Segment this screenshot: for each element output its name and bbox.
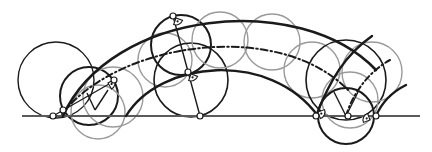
point-mid bbox=[185, 69, 191, 75]
middle-arc-dashed bbox=[62, 47, 348, 114]
point-top bbox=[170, 13, 176, 19]
geometric-construction-diagram bbox=[0, 0, 432, 152]
right-gray-circle-1 bbox=[284, 42, 340, 98]
point-left-mid bbox=[111, 77, 117, 83]
point-bottom bbox=[197, 113, 203, 119]
left-gray-circle-1 bbox=[71, 85, 125, 139]
left-v-line-2 bbox=[95, 90, 108, 110]
right-angle-arc bbox=[189, 74, 198, 83]
right-angle-right-3 bbox=[361, 113, 370, 122]
construction-circles bbox=[18, 12, 402, 144]
point-right-2 bbox=[345, 113, 351, 119]
point-left-ground bbox=[50, 113, 56, 119]
right-v-line-1 bbox=[334, 92, 346, 116]
point-right-1 bbox=[313, 113, 319, 119]
right-v-line-2 bbox=[346, 92, 358, 116]
diagram-canvas bbox=[0, 0, 432, 152]
diameter-line bbox=[173, 16, 200, 116]
big-left-circle bbox=[18, 42, 94, 118]
point-right-3 bbox=[373, 113, 379, 119]
right-angle-mid bbox=[189, 74, 198, 83]
arc-curves bbox=[62, 21, 406, 116]
point-left-start bbox=[60, 107, 66, 113]
right-angle-arc bbox=[361, 113, 370, 122]
